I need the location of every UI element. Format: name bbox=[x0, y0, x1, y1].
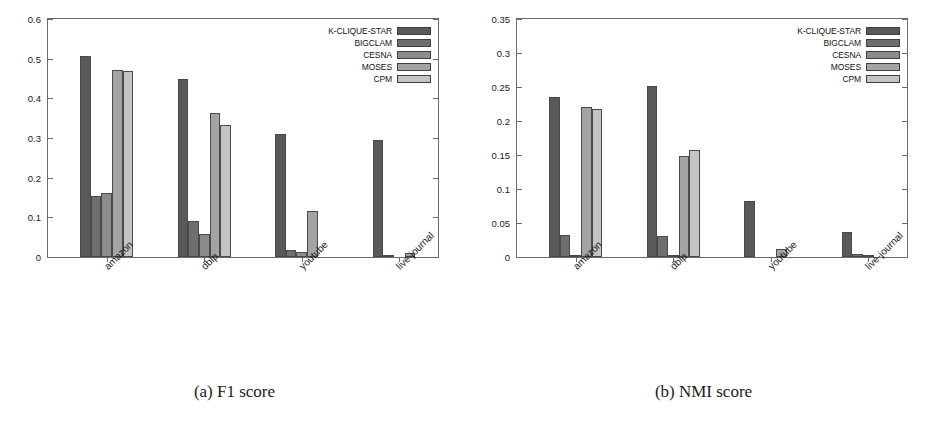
y-axis-tick bbox=[517, 87, 522, 88]
y-axis-tick bbox=[902, 121, 907, 122]
y-axis-label: 0.4 bbox=[28, 93, 41, 104]
legend-item: K-CLIQUE-STAR bbox=[797, 25, 900, 36]
legend-swatch-bigclam bbox=[397, 39, 431, 47]
y-axis-tick bbox=[902, 257, 907, 258]
legend-label: CPM bbox=[842, 74, 861, 84]
y-axis-label: 0.5 bbox=[28, 53, 41, 64]
y-axis-tick bbox=[48, 138, 53, 139]
legend-label: BIGCLAM bbox=[354, 38, 392, 48]
y-axis-tick bbox=[433, 19, 438, 20]
legend-label: CPM bbox=[373, 74, 392, 84]
legend-label: CESNA bbox=[363, 50, 392, 60]
bar bbox=[178, 79, 189, 257]
legend-item: CESNA bbox=[832, 49, 900, 60]
y-axis-tick bbox=[433, 138, 438, 139]
captions-row: (a) F1 score (b) NMI score bbox=[0, 340, 938, 423]
y-axis-tick bbox=[902, 87, 907, 88]
caption-nmi: (b) NMI score bbox=[469, 340, 938, 423]
bar bbox=[657, 236, 668, 257]
y-axis-label: 0.2 bbox=[28, 172, 41, 183]
y-axis-tick bbox=[433, 98, 438, 99]
bar bbox=[581, 107, 592, 257]
y-axis-tick bbox=[902, 189, 907, 190]
legend-item: MOSES bbox=[362, 61, 431, 72]
figure-container: 00.10.20.30.40.50.6 K-CLIQUE-STAR BIGCLA… bbox=[0, 0, 938, 423]
bar bbox=[647, 86, 658, 257]
bar bbox=[744, 201, 755, 257]
legend-label: CESNA bbox=[832, 50, 861, 60]
bar bbox=[592, 109, 603, 257]
y-axis-tick bbox=[517, 257, 522, 258]
y-axis-tick bbox=[902, 223, 907, 224]
bar bbox=[80, 56, 91, 257]
y-axis-tick bbox=[902, 155, 907, 156]
bar bbox=[549, 97, 560, 257]
legend-swatch-cesna bbox=[866, 51, 900, 59]
legend-label: K-CLIQUE-STAR bbox=[328, 26, 392, 36]
y-axis-label: 0.2 bbox=[497, 116, 510, 127]
y-axis-label: 0.35 bbox=[492, 14, 511, 25]
bar bbox=[112, 70, 123, 257]
y-axis-tick bbox=[517, 53, 522, 54]
legend-item: CPM bbox=[842, 73, 900, 84]
legend-swatch-k-clique-star bbox=[866, 27, 900, 35]
legend-item: BIGCLAM bbox=[354, 37, 431, 48]
bar bbox=[560, 235, 571, 257]
y-axis-tick bbox=[48, 98, 53, 99]
y-axis-label: 0.1 bbox=[28, 212, 41, 223]
legend-swatch-moses bbox=[397, 63, 431, 71]
legend-item: K-CLIQUE-STAR bbox=[328, 25, 431, 36]
legend-nmi: K-CLIQUE-STAR BIGCLAM CESNA MOSES bbox=[794, 23, 903, 86]
y-axis-label: 0.6 bbox=[28, 14, 41, 25]
y-axis-tick bbox=[433, 217, 438, 218]
bar bbox=[275, 134, 286, 257]
y-axis-label: 0.3 bbox=[497, 48, 510, 59]
bar bbox=[286, 250, 297, 257]
bar bbox=[679, 156, 690, 257]
y-axis-tick bbox=[517, 121, 522, 122]
legend-swatch-moses bbox=[866, 63, 900, 71]
legend-label: MOSES bbox=[831, 62, 861, 72]
bar bbox=[373, 140, 384, 257]
y-axis-label: 0 bbox=[505, 252, 510, 263]
legend-swatch-cpm bbox=[866, 75, 900, 83]
y-axis-tick bbox=[517, 189, 522, 190]
y-axis-label: 0.3 bbox=[28, 133, 41, 144]
legend-item: CESNA bbox=[363, 49, 431, 60]
bar bbox=[188, 221, 199, 257]
bar bbox=[101, 193, 112, 257]
y-axis-tick bbox=[902, 19, 907, 20]
chart-panels-row: 00.10.20.30.40.50.6 K-CLIQUE-STAR BIGCLA… bbox=[0, 0, 938, 340]
plot-area-f1: 00.10.20.30.40.50.6 K-CLIQUE-STAR BIGCLA… bbox=[47, 18, 439, 258]
y-axis-label: 0.25 bbox=[492, 82, 511, 93]
caption-f1: (a) F1 score bbox=[0, 340, 469, 423]
y-axis-tick bbox=[48, 217, 53, 218]
legend-label: MOSES bbox=[362, 62, 392, 72]
chart-panel-f1: 00.10.20.30.40.50.6 K-CLIQUE-STAR BIGCLA… bbox=[0, 0, 469, 340]
y-axis-label: 0.1 bbox=[497, 184, 510, 195]
legend-item: BIGCLAM bbox=[823, 37, 900, 48]
y-axis-tick bbox=[517, 223, 522, 224]
bar bbox=[842, 232, 853, 257]
bar bbox=[123, 71, 134, 257]
bar bbox=[852, 254, 863, 257]
y-axis-tick bbox=[433, 178, 438, 179]
legend-item: MOSES bbox=[831, 61, 900, 72]
legend-f1: K-CLIQUE-STAR BIGCLAM CESNA MOSES bbox=[325, 23, 434, 86]
legend-swatch-cpm bbox=[397, 75, 431, 83]
legend-swatch-k-clique-star bbox=[397, 27, 431, 35]
chart-panel-nmi: 00.050.10.150.20.250.30.35 K-CLIQUE-STAR… bbox=[469, 0, 938, 340]
bar bbox=[91, 196, 102, 257]
bar bbox=[210, 113, 221, 257]
y-axis-tick bbox=[48, 19, 53, 20]
y-axis-tick bbox=[48, 178, 53, 179]
legend-swatch-bigclam bbox=[866, 39, 900, 47]
y-axis-tick bbox=[517, 19, 522, 20]
y-axis-tick bbox=[517, 155, 522, 156]
legend-label: K-CLIQUE-STAR bbox=[797, 26, 861, 36]
y-axis-tick bbox=[48, 257, 53, 258]
legend-item: CPM bbox=[373, 73, 431, 84]
bar bbox=[689, 150, 700, 257]
plot-area-nmi: 00.050.10.150.20.250.30.35 K-CLIQUE-STAR… bbox=[516, 18, 908, 258]
bar bbox=[383, 255, 394, 257]
